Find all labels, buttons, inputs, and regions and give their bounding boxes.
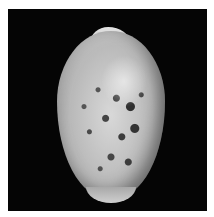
photo-background bbox=[8, 9, 207, 211]
cowrie-shell bbox=[57, 31, 165, 199]
shell-base bbox=[86, 187, 136, 203]
